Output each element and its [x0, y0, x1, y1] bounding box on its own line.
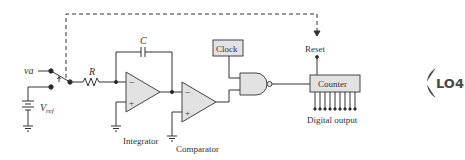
capacitor-label: C	[140, 35, 147, 46]
nand-inversion-bubble	[267, 82, 272, 87]
adc-circuit-diagram: − + − + va Vref R C Integrator Comparato…	[0, 0, 465, 160]
reference-voltage-label: Vref	[40, 102, 55, 115]
switch-blade	[51, 71, 70, 82]
resistor-label: R	[88, 66, 95, 77]
control-dashed-line	[66, 14, 317, 78]
input-voltage-label: va	[24, 65, 33, 76]
vref-wire	[28, 87, 51, 101]
digital-output-lines	[314, 92, 356, 110]
badge-text: LO4	[436, 76, 464, 91]
reset-label: Reset	[305, 44, 325, 54]
reset-arrow-icon	[314, 31, 320, 36]
integrator-plus-sign: +	[129, 98, 134, 108]
clock-label: Clock	[216, 44, 238, 54]
learning-objective-badge: LO4	[426, 66, 465, 100]
ground-icon	[23, 126, 33, 131]
integrator-minus-sign: −	[129, 77, 135, 88]
ground-icon	[167, 136, 177, 141]
comparator-label: Comparator	[176, 144, 219, 154]
counter-label: Counter	[318, 79, 347, 89]
integrator-label: Integrator	[123, 136, 158, 146]
junction-node	[170, 90, 173, 93]
switch-arrow-icon	[58, 77, 61, 83]
nand-gate	[240, 73, 267, 95]
comparator-plus-sign: +	[185, 108, 190, 118]
ground-icon	[111, 126, 121, 131]
resistor-icon	[83, 78, 101, 86]
comparator-minus-sign: −	[185, 87, 191, 98]
digital-output-label: Digital output	[307, 115, 358, 125]
